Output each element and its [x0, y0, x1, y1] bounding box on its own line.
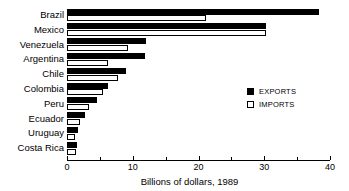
x-tick-major — [330, 156, 331, 160]
bar-imports — [67, 119, 80, 125]
legend-label: IMPORTS — [259, 100, 294, 109]
bar-imports — [67, 30, 266, 36]
x-tick-major — [67, 156, 68, 160]
bar-imports — [67, 60, 108, 66]
category-label: Venezuela — [0, 40, 64, 50]
x-tick-major — [264, 156, 265, 160]
bar-group — [67, 112, 330, 127]
x-axis-title: Billions of dollars, 1989 — [0, 176, 349, 187]
x-tick-label: 40 — [315, 162, 345, 172]
bar-exports — [67, 127, 78, 133]
bar-group — [67, 8, 330, 23]
bar-exports — [67, 97, 97, 103]
bar-imports — [67, 75, 118, 81]
x-tick-minor — [231, 157, 232, 160]
bar-imports — [67, 89, 103, 95]
bar-exports — [67, 112, 85, 118]
bar-imports — [67, 149, 76, 155]
chart-legend: EXPORTSIMPORTS — [247, 86, 296, 112]
category-label: Peru — [0, 99, 64, 109]
x-tick-major — [199, 156, 200, 160]
x-tick-label: 20 — [184, 162, 214, 172]
bar-imports — [67, 45, 128, 51]
x-tick-minor — [297, 157, 298, 160]
category-label: Mexico — [0, 25, 64, 35]
bar-imports — [67, 15, 206, 21]
bar-exports — [67, 142, 77, 148]
category-label: Chile — [0, 69, 64, 79]
bar-chart: BrazilMexicoVenezuelaArgentinaChileColom… — [0, 0, 349, 191]
legend-item: EXPORTS — [247, 86, 296, 97]
category-label: Brazil — [0, 10, 64, 20]
bar-exports — [67, 38, 146, 44]
bar-group — [67, 126, 330, 141]
legend-item: IMPORTS — [247, 99, 296, 110]
x-axis-line — [67, 160, 330, 161]
bar-group — [67, 67, 330, 82]
bar-imports — [67, 104, 89, 110]
x-tick-major — [133, 156, 134, 160]
bar-exports — [67, 83, 108, 89]
plot-area — [67, 8, 330, 156]
category-label: Uruguay — [0, 128, 64, 138]
category-label: Argentina — [0, 54, 64, 64]
bar-group — [67, 23, 330, 38]
bar-imports — [67, 134, 75, 140]
hollow-square-icon — [247, 101, 254, 108]
bar-group — [67, 38, 330, 53]
bar-group — [67, 141, 330, 156]
category-label: Ecuador — [0, 114, 64, 124]
x-tick-label: 30 — [249, 162, 279, 172]
bar-group — [67, 52, 330, 67]
x-tick-minor — [100, 157, 101, 160]
x-tick-minor — [166, 157, 167, 160]
legend-label: EXPORTS — [259, 87, 296, 96]
bar-exports — [67, 68, 126, 74]
category-label: Colombia — [0, 84, 64, 94]
category-label: Costa Rica — [0, 143, 64, 153]
bar-exports — [67, 23, 266, 29]
x-tick-label: 10 — [118, 162, 148, 172]
filled-square-icon — [247, 88, 254, 95]
bar-exports — [67, 9, 319, 15]
bar-exports — [67, 53, 145, 59]
x-tick-label: 0 — [52, 162, 82, 172]
